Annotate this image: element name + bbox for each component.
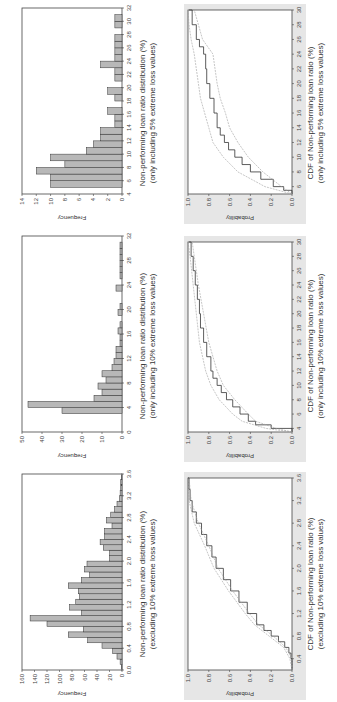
y-tick-label: 0.4 [247, 435, 253, 444]
y-tick-label: 2 [105, 197, 111, 201]
caption-line1: Non-performing loan ratio distribution (… [138, 468, 148, 700]
histogram-bar [121, 474, 122, 479]
x-tick-label: 6 [296, 412, 302, 416]
caption-line1: CDF of Non-performing loan ratio (%) [306, 230, 316, 462]
caption-line1: Non-performing loan ratio distribution (… [138, 2, 148, 224]
x-tick-label: 14 [126, 124, 132, 131]
histogram-bar [118, 310, 122, 316]
histogram-bar [76, 599, 122, 604]
x-tick-label: 1.2 [126, 600, 132, 609]
x-tick-label: 2.4 [296, 541, 302, 550]
histogram-bar [65, 161, 122, 168]
histogram-bar [118, 328, 122, 334]
histogram-bar [78, 588, 122, 593]
histogram-bar [110, 556, 123, 561]
histogram-bar [81, 610, 122, 615]
histogram-bar [120, 267, 122, 273]
x-tick-label: 14 [296, 124, 302, 131]
x-tick-label: 3.6 [296, 473, 302, 482]
y-tick-label: 1.0 [185, 435, 191, 444]
x-tick-label: 28 [296, 252, 302, 259]
y-axis-label: Probability [226, 453, 254, 459]
y-tick-label: 60 [82, 673, 88, 680]
y-tick-label: 0.4 [247, 197, 253, 206]
histogram-bar [117, 501, 122, 506]
x-tick-label: 30 [296, 238, 302, 245]
histogram-only-10pct-plot: 04812162024283201020304050Frequency [18, 230, 136, 462]
caption-line1: CDF of Non-performing loan ratio (%) [306, 468, 316, 700]
y-axis-label: Frequency [58, 215, 86, 221]
histogram-bar [120, 261, 122, 267]
caption-line2: (only including 5% extreme loss values) [316, 2, 326, 224]
histogram-bar [68, 632, 122, 637]
y-tick-label: 80 [69, 673, 75, 680]
histogram-bar [111, 512, 122, 517]
x-tick-label: 20 [296, 80, 302, 87]
histogram-bar [115, 35, 122, 42]
y-tick-label: 0.0 [289, 197, 295, 206]
histogram-bar [114, 359, 122, 365]
histogram-bar [115, 121, 122, 128]
histogram-bar [100, 539, 122, 544]
histogram-excluding-10pct: 0.00.40.81.21.62.02.42.83.23.60204060801… [18, 468, 168, 700]
plot-area [188, 10, 292, 194]
histogram-bar [51, 181, 122, 188]
histogram-bar [115, 15, 122, 22]
y-tick-label: 1.0 [185, 673, 191, 682]
cdf-excluding-10pct-plot: 0.40.81.21.62.02.42.83.23.60.00.20.40.60… [184, 472, 306, 700]
y-tick-label: 0.8 [206, 197, 212, 206]
histogram-bar [101, 61, 122, 68]
x-tick-label: 6 [126, 178, 132, 182]
x-tick-label: 8 [126, 381, 132, 385]
y-tick-label: 12 [33, 197, 39, 204]
histogram-bar [90, 572, 123, 577]
y-tick-label: 160 [19, 673, 25, 684]
x-tick-label: 32 [126, 232, 132, 239]
x-tick-label: 26 [296, 35, 302, 42]
histogram-bar [105, 534, 123, 539]
x-tick-label: 28 [126, 31, 132, 38]
x-tick-label: 26 [126, 44, 132, 51]
y-axis-label: Frequency [58, 453, 86, 459]
x-tick-label: 12 [126, 355, 132, 362]
x-tick-label: 32 [126, 4, 132, 11]
histogram-bar [51, 174, 122, 181]
y-tick-label: 0.2 [268, 197, 274, 206]
histogram-bar [68, 583, 122, 588]
cdf-only-5pct-plot: 6810121416182022242628300.00.20.40.60.81… [184, 4, 306, 224]
histogram-bar [115, 507, 123, 512]
cdf-excluding-10pct: 0.40.81.21.62.02.42.83.23.60.00.20.40.60… [184, 468, 334, 700]
histogram-bar [120, 273, 122, 279]
y-tick-label: 0 [119, 197, 125, 201]
x-tick-label: 4 [126, 192, 132, 196]
y-tick-label: 100 [57, 673, 63, 684]
caption-line1: Non-performing loan ratio distribution (… [138, 230, 148, 462]
histogram-bar [62, 408, 122, 414]
histogram-bar [101, 134, 122, 141]
x-tick-label: 2.0 [126, 556, 132, 565]
figure-canvas: 0.00.40.81.21.62.02.42.83.23.60204060801… [0, 0, 337, 702]
x-tick-label: 24 [126, 281, 132, 288]
histogram-bar [117, 654, 122, 659]
histogram-bar [87, 561, 122, 566]
plot-area [188, 478, 292, 670]
histogram-bar [115, 55, 122, 62]
y-tick-label: 30 [59, 435, 65, 442]
x-tick-label: 26 [296, 267, 302, 274]
x-tick-label: 8 [296, 397, 302, 401]
histogram-bar [98, 383, 122, 389]
histogram-bar [115, 94, 122, 101]
y-tick-label: 0.6 [227, 673, 233, 682]
y-tick-label: 0.2 [268, 435, 274, 444]
x-tick-label: 22 [296, 295, 302, 302]
y-tick-label: 0.8 [206, 673, 212, 682]
y-tick-label: 140 [32, 673, 38, 684]
histogram-bar [121, 665, 122, 670]
x-tick-label: 4 [296, 426, 302, 430]
cdf-only-10pct-plot: 46810121416182022242628300.00.20.40.60.8… [184, 236, 306, 462]
histogram-bar [116, 352, 122, 358]
x-tick-label: 1.2 [296, 609, 302, 618]
y-tick-label: 40 [94, 673, 100, 680]
y-tick-label: 50 [19, 435, 25, 442]
y-tick-label: 40 [39, 435, 45, 442]
